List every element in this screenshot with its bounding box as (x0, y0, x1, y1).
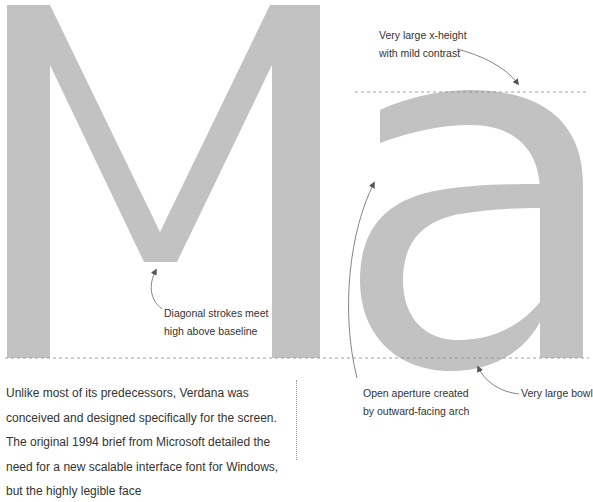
annotation-bowl-line1: Very large bowl (521, 384, 593, 402)
annotation-vertex: Diagonal strokes meet high above baselin… (164, 304, 268, 340)
annotation-aperture: Open aperture created by outward-facing … (363, 384, 469, 420)
annotation-aperture-line2: by outward-facing arch (363, 402, 469, 420)
glyph-a (360, 90, 583, 371)
column-divider (296, 380, 297, 460)
annotation-x-height-line2: with mild contrast (379, 44, 467, 62)
annotation-vertex-line1: Diagonal strokes meet (164, 304, 268, 322)
arrow-vertex (151, 270, 162, 309)
annotation-x-height: Very large x-height with mild contrast (379, 26, 467, 62)
annotation-x-height-line1: Very large x-height (379, 26, 467, 44)
body-paragraph: Unlike most of its predecessors, Verdana… (6, 381, 296, 502)
annotation-bowl: Very large bowl (521, 384, 593, 402)
arrow-bowl (478, 367, 519, 394)
annotation-vertex-line2: high above baseline (164, 322, 268, 340)
annotation-aperture-line1: Open aperture created (363, 384, 469, 402)
